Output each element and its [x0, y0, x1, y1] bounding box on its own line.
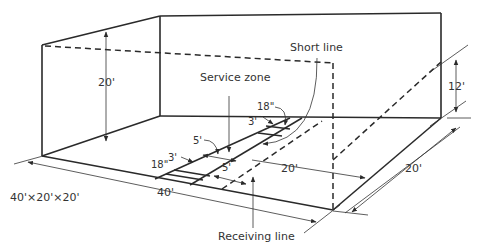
service-box-depth-bottom-label: 3' — [168, 152, 177, 163]
service-zone-lines — [155, 118, 322, 189]
receiving-line-distance-label: 5' — [222, 162, 231, 173]
short-line-to-back-label: 20' — [281, 162, 298, 175]
service-box-width-bottom-label: 18" — [151, 159, 168, 170]
dimension-lines — [14, 32, 471, 233]
service-box-width-top-label: 18" — [257, 101, 274, 112]
racquetball-court-diagram: Short line Service zone Receiving line 4… — [0, 0, 481, 249]
service-box-depth-top-label: 3' — [248, 116, 257, 127]
service-zone-label: Service zone — [200, 71, 271, 84]
short-line-label: Short line — [290, 41, 343, 54]
court-length-label: 40' — [157, 186, 174, 199]
court-width-label: 20' — [405, 162, 422, 175]
court-outline — [42, 13, 441, 210]
service-zone-depth-label: 5' — [193, 135, 202, 146]
receiving-line-label: Receiving line — [218, 230, 295, 243]
court-size-label: 40'×20'×20' — [10, 191, 80, 204]
front-wall-height-label: 20' — [98, 76, 115, 89]
back-wall-height-label: 12' — [448, 80, 465, 93]
